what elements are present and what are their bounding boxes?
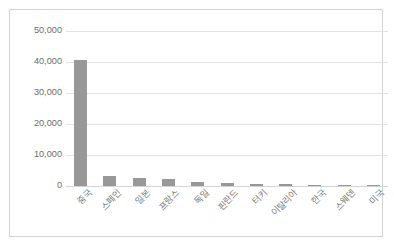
chart-screenshot: 010,00020,00030,00040,00050,000 중국스페인일본프… xyxy=(0,0,394,249)
bar xyxy=(191,182,204,186)
bar xyxy=(162,179,175,186)
chart-frame: 010,00020,00030,00040,00050,000 중국스페인일본프… xyxy=(9,9,383,237)
gridline xyxy=(66,186,388,187)
bar xyxy=(133,178,146,186)
y-axis-tick-label: 20,000 xyxy=(16,119,62,128)
bar xyxy=(103,176,116,186)
y-axis-tick-label: 30,000 xyxy=(16,88,62,97)
y-axis-tick-label: 0 xyxy=(16,181,62,190)
bar xyxy=(308,185,321,187)
bar xyxy=(338,185,351,187)
bar-series xyxy=(66,31,388,186)
bar xyxy=(367,185,380,187)
y-axis-tick-labels: 010,00020,00030,00040,00050,000 xyxy=(14,31,62,186)
bar xyxy=(74,60,87,186)
y-axis-tick-label: 50,000 xyxy=(16,26,62,35)
y-axis-tick-label: 40,000 xyxy=(16,57,62,66)
y-axis-tick-label: 10,000 xyxy=(16,150,62,159)
bar xyxy=(279,184,292,186)
x-axis-tick-labels: 중국스페인일본프랑스독일핀란드터키이탈리아한국스웨덴미국 xyxy=(66,188,388,240)
bar xyxy=(221,183,234,186)
bar xyxy=(250,184,263,186)
